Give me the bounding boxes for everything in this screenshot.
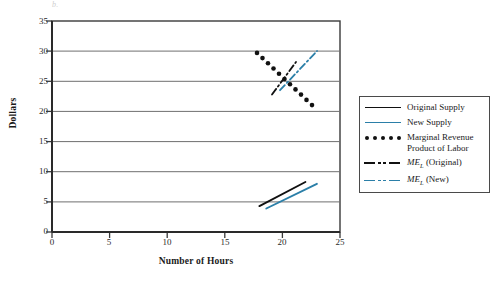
legend-label-me: ME xyxy=(407,157,420,167)
legend-item-me-l-original: MEL (Original) xyxy=(364,157,486,171)
legend-label: New Supply xyxy=(407,116,452,128)
legend-key-dashdot-blue-icon xyxy=(364,174,402,186)
legend-key-dashdot-black-icon xyxy=(364,157,402,169)
plot-frame xyxy=(52,21,340,232)
legend-item-marginal-revenue-product: Marginal Revenue Product of Labor xyxy=(364,131,486,154)
legend-item-new-supply: New Supply xyxy=(364,116,486,128)
legend-label: MEL (New) xyxy=(407,174,449,188)
legend-label: Marginal Revenue Product of Labor xyxy=(407,131,486,154)
legend-label: Original Supply xyxy=(407,101,465,113)
legend-key-solid-blue-icon xyxy=(364,116,402,128)
legend-label-suffix: (New) xyxy=(424,174,449,184)
legend-key-solid-black-icon xyxy=(364,101,402,113)
legend-label-suffix: (Original) xyxy=(424,157,462,167)
legend-item-original-supply: Original Supply xyxy=(364,101,486,113)
legend-item-me-l-new: MEL (New) xyxy=(364,174,486,188)
chart-legend: Original Supply New Supply Marginal Reve… xyxy=(359,96,490,193)
legend-label: MEL (Original) xyxy=(407,157,462,171)
legend-key-dotted-black-icon xyxy=(364,131,402,143)
legend-label-me: ME xyxy=(407,174,420,184)
chart-figure: b. Dollars Number of Hours 35 30 25 20 1… xyxy=(0,0,496,291)
